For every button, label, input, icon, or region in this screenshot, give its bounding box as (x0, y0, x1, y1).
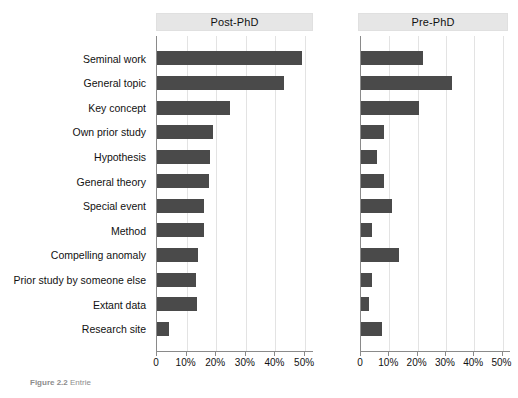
tick-label: 40% (264, 357, 284, 368)
bar[interactable] (361, 248, 399, 262)
bar[interactable] (361, 297, 369, 311)
bar-row (157, 317, 314, 342)
tick-mark (445, 352, 446, 356)
bar-row (157, 96, 314, 121)
bar-row (361, 145, 511, 170)
bar[interactable] (157, 125, 213, 139)
bar-row (361, 218, 511, 243)
bar[interactable] (157, 322, 169, 336)
bar-row (157, 268, 314, 293)
plot-panel-post-phd (156, 36, 313, 352)
x-axis-pre-phd: 010%20%30%40%50% (360, 352, 510, 374)
x-axis-post-phd: 010%20%30%40%50% (156, 352, 313, 374)
bar[interactable] (157, 199, 204, 213)
panel-header-post-phd-label: Post-PhD (211, 16, 259, 28)
bar-row (361, 317, 511, 342)
tick-label: 0 (357, 357, 363, 368)
figure-caption: Figure 2.2 Entrie (30, 378, 91, 387)
bar-row (157, 169, 314, 194)
bar[interactable] (361, 51, 423, 65)
tick-label: 10% (378, 357, 398, 368)
bar-row (361, 194, 511, 219)
category-axis-labels: Seminal workGeneral topicKey conceptOwn … (0, 36, 152, 352)
tick-mark (274, 352, 275, 356)
bar-row (157, 218, 314, 243)
category-label: Key concept (88, 96, 146, 121)
category-label: Method (111, 218, 146, 243)
bar-row (157, 145, 314, 170)
bar[interactable] (361, 174, 384, 188)
tick-label: 0 (153, 357, 159, 368)
bar[interactable] (157, 273, 196, 287)
bar-row (361, 46, 511, 71)
tick-mark (186, 352, 187, 356)
category-label: Hypothesis (94, 145, 146, 170)
panel-header-pre-phd: Pre-PhD (358, 13, 508, 31)
tick-mark (502, 352, 503, 356)
bar-row (157, 120, 314, 145)
bar[interactable] (157, 174, 209, 188)
bar-row (157, 243, 314, 268)
tick-label: 20% (205, 357, 225, 368)
figure-caption-label: Figure 2.2 (30, 378, 68, 387)
plot-panel-pre-phd (360, 36, 510, 352)
bar[interactable] (361, 322, 382, 336)
category-label: Prior study by someone else (14, 268, 146, 293)
tick-label: 10% (176, 357, 196, 368)
category-label: General topic (84, 71, 146, 96)
tick-mark (304, 352, 305, 356)
bar[interactable] (361, 273, 372, 287)
bar[interactable] (361, 125, 384, 139)
tick-label: 20% (407, 357, 427, 368)
tick-mark (473, 352, 474, 356)
tick-mark (360, 352, 361, 356)
category-label: Compelling anomaly (51, 243, 146, 268)
bar[interactable] (361, 101, 419, 115)
bar[interactable] (157, 101, 230, 115)
bar[interactable] (157, 150, 210, 164)
category-label: Research site (82, 317, 146, 342)
category-label: Own prior study (72, 120, 146, 145)
bar[interactable] (361, 150, 377, 164)
bar[interactable] (361, 223, 372, 237)
bar-row (361, 292, 511, 317)
tick-label: 50% (294, 357, 314, 368)
category-label: Seminal work (83, 46, 146, 71)
bar-row (157, 71, 314, 96)
bar-row (361, 268, 511, 293)
bar[interactable] (361, 76, 452, 90)
tick-mark (156, 352, 157, 356)
bar-row (361, 71, 511, 96)
tick-label: 30% (435, 357, 455, 368)
tick-label: 30% (235, 357, 255, 368)
bar-row (157, 292, 314, 317)
bar[interactable] (157, 248, 198, 262)
category-label: General theory (77, 169, 146, 194)
bar-row (361, 120, 511, 145)
bar[interactable] (157, 76, 284, 90)
tick-label: 40% (463, 357, 483, 368)
bar[interactable] (157, 297, 197, 311)
tick-mark (417, 352, 418, 356)
bar[interactable] (157, 223, 204, 237)
category-label: Extant data (93, 292, 146, 317)
bar[interactable] (157, 51, 302, 65)
bar-row (157, 46, 314, 71)
tick-label: 50% (491, 357, 511, 368)
category-label: Special event (83, 194, 146, 219)
bar-row (361, 243, 511, 268)
panel-header-post-phd: Post-PhD (156, 13, 313, 31)
tick-mark (215, 352, 216, 356)
panel-header-pre-phd-label: Pre-PhD (412, 16, 455, 28)
tick-mark (245, 352, 246, 356)
bar-row (157, 194, 314, 219)
figure-caption-text: Entrie (70, 378, 91, 387)
bar-row (361, 96, 511, 121)
tick-mark (388, 352, 389, 356)
figure-container: Post-PhD Pre-PhD Seminal workGeneral top… (0, 0, 518, 398)
bar-row (361, 169, 511, 194)
bar[interactable] (361, 199, 392, 213)
